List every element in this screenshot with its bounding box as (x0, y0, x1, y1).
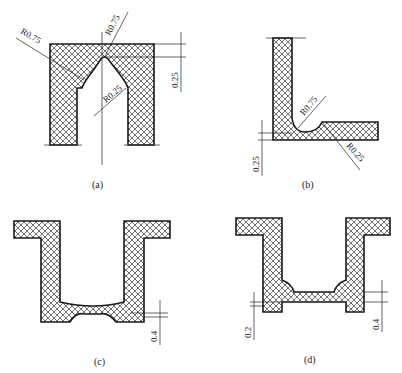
label-dim-02: 0.2 (243, 327, 253, 338)
panel-b-section (273, 38, 378, 140)
caption-b: (b) (302, 179, 314, 191)
label-r075-left: R0.75 (19, 26, 43, 46)
label-r025: R0.25 (345, 141, 367, 164)
panel-d: 0.2 0.4 (d) (236, 218, 390, 366)
panel-c: 0.4 (c) (14, 221, 170, 368)
label-r025-inner: R0.25 (101, 83, 124, 105)
label-dim-04: 0.4 (149, 330, 159, 342)
caption-c: (c) (94, 356, 105, 368)
panel-a: R0.75 R0.75 R0.25 0.25 (a) (16, 12, 186, 191)
label-dim-04: 0.4 (371, 318, 381, 330)
caption-a: (a) (92, 179, 103, 191)
caption-d: (d) (304, 354, 316, 366)
figure-canvas: R0.75 R0.75 R0.25 0.25 (a) R0.75 R0.25 0… (0, 0, 402, 373)
panel-d-section (236, 218, 390, 312)
label-r075: R0.75 (298, 94, 320, 117)
label-dim-025: 0.25 (170, 72, 180, 88)
label-dim-025: 0.25 (251, 156, 261, 172)
panel-b: R0.75 R0.25 0.25 (b) (251, 38, 378, 191)
panel-c-section (14, 221, 170, 322)
label-r075-top: R0.75 (103, 13, 122, 37)
